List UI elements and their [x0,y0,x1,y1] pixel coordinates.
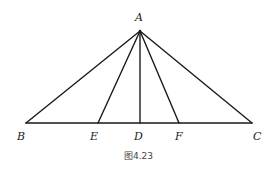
segment-AB [26,31,140,123]
point-label-D: D [133,130,143,143]
triangle-diagram: A B E D F C [0,0,277,171]
point-label-C: C [253,130,262,143]
segment-AC [140,31,252,123]
point-label-F: F [174,130,183,143]
vertex-A-dot [139,30,142,33]
point-label-B: B [16,130,25,143]
point-label-E: E [89,130,98,143]
segment-AE [98,31,140,123]
point-label-A: A [134,11,143,24]
segment-AF [140,31,179,123]
figure-caption: 图4.23 [0,149,277,162]
